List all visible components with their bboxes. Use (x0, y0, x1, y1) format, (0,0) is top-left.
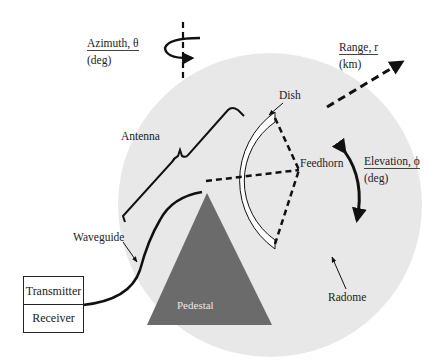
receiver-box: Receiver (23, 304, 84, 333)
radome-label: Radome (328, 291, 366, 303)
range-name: Range, r (339, 41, 378, 55)
azimuth-label: Azimuth, θ (deg) (87, 37, 139, 66)
transmitter-label: Transmitter (26, 284, 82, 299)
range-unit: (km) (339, 58, 378, 70)
azimuth-name: Azimuth, θ (87, 37, 139, 51)
antenna-label: Antenna (121, 130, 160, 142)
waveguide-label: Waveguide (73, 231, 124, 243)
range-label: Range, r (km) (339, 41, 378, 70)
azimuth-rotation-icon (165, 22, 200, 78)
receiver-label: Receiver (32, 311, 75, 326)
elevation-label: Elevation, ϕ (deg) (364, 155, 420, 184)
feedhorn-label: Feedhorn (300, 157, 343, 169)
elevation-name: Elevation, ϕ (364, 155, 420, 169)
pedestal-label: Pedestal (177, 299, 214, 311)
elevation-unit: (deg) (364, 172, 420, 184)
transmitter-box: Transmitter (23, 276, 84, 306)
dish-label: Dish (279, 89, 301, 101)
azimuth-unit: (deg) (87, 54, 139, 66)
